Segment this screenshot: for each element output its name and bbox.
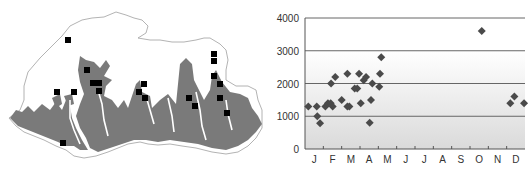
x-tick-label: A — [439, 154, 446, 165]
sample-marker — [186, 95, 192, 101]
sample-marker — [90, 80, 96, 86]
x-tick-label: M — [347, 154, 355, 165]
elevation-scatter-chart: 01000200030004000 JFMAMJJASOND — [265, 0, 530, 171]
sample-marker — [217, 81, 223, 87]
sample-marker — [71, 89, 77, 95]
x-tick-label: J — [312, 154, 317, 165]
x-tick-label: M — [383, 154, 391, 165]
sample-marker — [136, 89, 142, 95]
x-tick-label: F — [329, 154, 335, 165]
y-tick-label: 0 — [293, 144, 299, 155]
x-tick-label: J — [422, 154, 427, 165]
x-tick-label: O — [475, 154, 483, 165]
sample-marker — [217, 95, 223, 101]
sample-marker — [142, 95, 148, 101]
sample-marker — [60, 140, 66, 146]
sample-marker — [65, 37, 71, 43]
x-tick-label: J — [403, 154, 408, 165]
x-tick-label: N — [494, 154, 501, 165]
sample-marker — [224, 110, 230, 116]
sample-marker — [54, 89, 60, 95]
sample-marker — [96, 80, 102, 86]
sample-marker — [141, 81, 147, 87]
y-axis-ticks: 01000200030004000 — [277, 13, 300, 155]
sample-marker — [84, 67, 90, 73]
y-tick-label: 2000 — [277, 79, 300, 90]
sample-marker — [192, 103, 198, 109]
y-tick-label: 1000 — [277, 111, 300, 122]
sample-marker — [211, 51, 217, 57]
sample-marker — [96, 88, 102, 94]
x-tick-label: D — [512, 154, 519, 165]
x-tick-label: S — [457, 154, 464, 165]
y-tick-label: 3000 — [277, 46, 300, 57]
x-tick-label: A — [366, 154, 373, 165]
sample-marker — [211, 73, 217, 79]
elevation-map — [0, 0, 265, 171]
data-point-diamond — [478, 27, 486, 35]
sample-marker — [211, 58, 217, 64]
y-tick-label: 4000 — [277, 13, 300, 24]
